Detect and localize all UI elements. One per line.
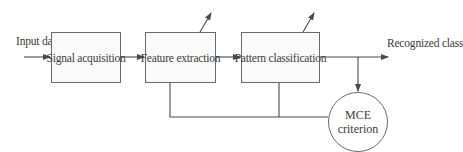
block-label: Signal acquisition: [46, 52, 125, 64]
block-label: Feature extraction: [141, 52, 221, 64]
block-signal-acquisition: Signal acquisition: [51, 32, 121, 83]
adjust-arrow-fe-icon: [200, 13, 211, 32]
block-pattern-classification: Pattern classification: [241, 32, 320, 83]
adjust-arrow-pc-icon: [303, 13, 314, 32]
feedback-line-fe: [170, 83, 328, 117]
mce-criterion-node: MCE criterion: [328, 92, 388, 152]
criterion-line1: MCE: [345, 108, 371, 122]
block-feature-extraction: Feature extraction: [145, 32, 216, 83]
output-label: Recognized class: [387, 38, 463, 50]
block-label: Pattern classification: [235, 52, 327, 64]
criterion-line2: criterion: [338, 122, 379, 136]
